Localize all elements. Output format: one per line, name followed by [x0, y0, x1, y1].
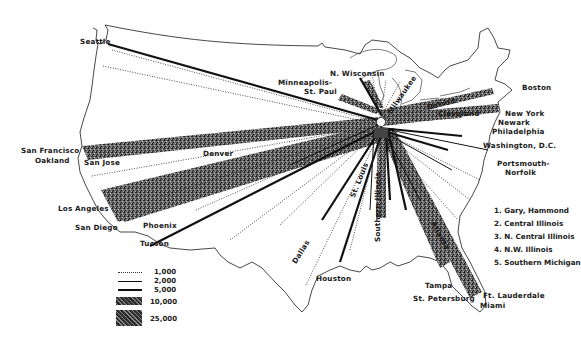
label-southern-illinois: Southern Illinois: [374, 172, 381, 242]
legend-value: 10,000: [150, 298, 177, 306]
legend-swatch-wide-textured-band: [116, 310, 142, 326]
label-san-jose: San Jose: [84, 159, 120, 166]
legend-swatch-thin-line: [118, 281, 142, 282]
legend-value: 25,000: [150, 315, 177, 323]
legend-row-2000: 2,000: [118, 277, 248, 286]
label-portsmouth: Portsmouth-: [497, 160, 550, 167]
label-newark: Newark: [498, 119, 530, 126]
label-st-petersburg: St. Petersburg: [413, 295, 475, 302]
label-phoenix: Phoenix: [143, 222, 177, 229]
note-item: 1. Gary, Hammond: [494, 206, 581, 219]
label-los-angeles: Los Angeles: [58, 205, 109, 212]
note-item: 2. Central Illinois: [494, 219, 581, 232]
label-houston: Houston: [316, 275, 351, 282]
label-oakland: Oakland: [35, 157, 70, 164]
legend-row-25000: 25,000: [118, 310, 248, 328]
label-minneapolis: Minneapolis-: [278, 79, 332, 86]
label-tampa: Tampa: [425, 282, 452, 289]
map-legend: 1,000 2,000 5,000 10,000 25,000: [118, 268, 248, 328]
label-cleveland: Cleveland: [438, 110, 480, 117]
label-norfolk: Norfolk: [505, 169, 536, 176]
legend-row-5000: 5,000: [118, 286, 248, 295]
label-st-paul: St. Paul: [304, 88, 337, 95]
label-san-francisco: San Francisco: [21, 147, 79, 154]
note-item: 3. N. Central Illinois: [494, 232, 581, 245]
label-san-diego: San Diego: [75, 224, 118, 231]
note-item: 5. Southern Michigan: [494, 258, 581, 271]
legend-value: 1,000: [154, 268, 176, 276]
label-n-wisconsin: N. Wisconsin: [330, 70, 385, 77]
label-seattle: Seattle: [80, 38, 111, 45]
legend-swatch-textured-band: [116, 297, 142, 305]
legend-swatch-dotted: [118, 272, 142, 273]
hub-notes: 1. Gary, Hammond 2. Central Illinois 3. …: [494, 206, 581, 271]
legend-row-1000: 1,000: [118, 268, 248, 277]
note-item: 4. N.W. Illinois: [494, 245, 581, 258]
label-tucson: Tucson: [140, 240, 169, 247]
label-boston: Boston: [522, 84, 551, 91]
label-philadelphia: Philadelphia: [492, 128, 545, 135]
label-denver: Denver: [203, 150, 233, 157]
label-washington: Washington, D.C.: [483, 142, 556, 149]
label-miami: Miami: [480, 302, 505, 309]
legend-value: 2,000: [154, 277, 176, 285]
legend-value: 5,000: [154, 286, 176, 294]
label-ft-lauderdale: Ft. Lauderdale: [483, 292, 545, 299]
label-new-york: New York: [505, 110, 544, 117]
legend-swatch-thick-line: [118, 289, 142, 291]
legend-row-10000: 10,000: [118, 297, 248, 310]
chicago-hub: [377, 118, 386, 127]
